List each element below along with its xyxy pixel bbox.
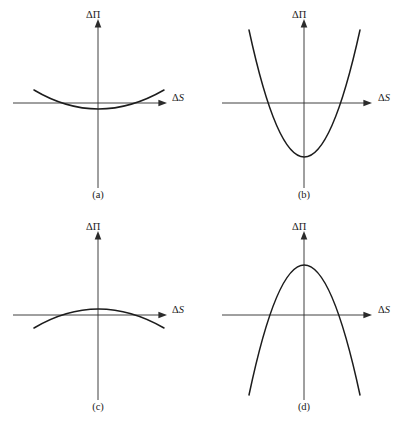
panel-a-y-axis-label: ΔΠ [86, 9, 101, 20]
panel-d-caption: (d) [298, 401, 311, 413]
panel-b-x-axis-label: ΔS [378, 92, 391, 103]
panel-d-y-axis-label: ΔΠ [292, 221, 307, 232]
panel-b-y-axis-label: ΔΠ [292, 9, 307, 20]
panel-d-x-axis-label: ΔS [378, 304, 391, 315]
panel-a-caption: (a) [92, 189, 104, 201]
panel-c-caption: (c) [92, 401, 104, 413]
panel-c-y-axis-label: ΔΠ [86, 221, 101, 232]
panel-c-x-axis-label: ΔS [172, 304, 185, 315]
panel-a-x-axis-label: ΔS [172, 92, 185, 103]
figure-background [0, 0, 409, 424]
four-panel-parabola-figure: ΔΠ ΔS (a) ΔΠ ΔS (b) [0, 0, 409, 424]
panel-b-caption: (b) [298, 189, 311, 201]
